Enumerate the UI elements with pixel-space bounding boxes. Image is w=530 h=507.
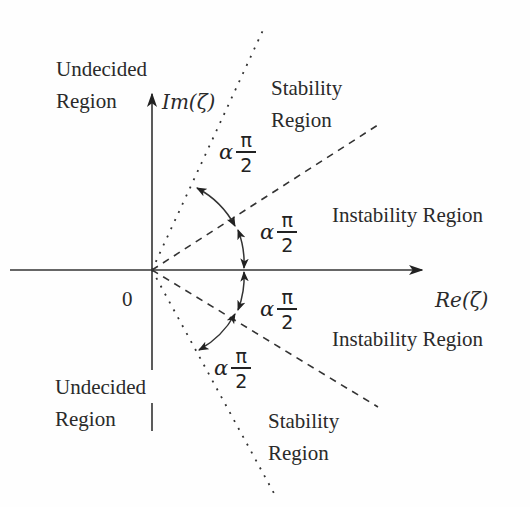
pi-symbol: π	[235, 346, 246, 366]
origin-label: 0	[122, 286, 133, 312]
angle-label-lower-outer: α π 2	[214, 346, 251, 391]
real-axis-label: Re(ζ)	[435, 287, 488, 313]
fraction-bar	[277, 231, 297, 233]
pi-symbol: π	[281, 210, 292, 230]
undecided-region-bottom: Undecided Region	[55, 374, 146, 432]
undecided-region-top: Undecided Region	[56, 56, 147, 114]
denominator: 2	[281, 235, 293, 255]
denominator: 2	[235, 371, 247, 391]
stability-bottom-line1: Stability	[268, 408, 339, 434]
stability-region-diagram: Im(ζ) Re(ζ) 0 Undecided Region Stability…	[0, 0, 530, 507]
denominator: 2	[281, 312, 293, 332]
undecided-bottom-line1: Undecided	[55, 374, 146, 400]
instability-region-bottom: Instability Region	[332, 326, 483, 352]
angle-label-lower-inner: α π 2	[260, 287, 297, 332]
denominator: 2	[240, 155, 252, 175]
stability-top-line1: Stability	[271, 75, 342, 101]
angle-arc-lower-outer	[199, 314, 235, 350]
undecided-top-line1: Undecided	[56, 56, 147, 82]
stability-top-line2: Region	[271, 107, 342, 133]
undecided-bottom-line2: Region	[55, 406, 146, 432]
instability-region-top: Instability Region	[332, 202, 483, 228]
stability-region-top: Stability Region	[271, 75, 342, 133]
alpha-symbol: α	[260, 297, 274, 321]
imaginary-axis-label: Im(ζ)	[162, 89, 215, 115]
fraction-bar	[236, 151, 256, 153]
stability-bottom-line2: Region	[268, 440, 339, 466]
alpha-symbol: α	[219, 140, 233, 164]
pi-symbol: π	[240, 130, 251, 150]
angle-label-upper-inner: α π 2	[260, 210, 297, 255]
fraction-bar	[231, 367, 251, 369]
angle-arc-lower-inner	[238, 272, 244, 310]
undecided-top-line2: Region	[56, 88, 147, 114]
angle-arc-upper-inner	[238, 230, 244, 268]
fraction-bar	[277, 308, 297, 310]
angle-label-upper-outer: α π 2	[219, 130, 256, 175]
pi-symbol: π	[281, 287, 292, 307]
alpha-symbol: α	[214, 356, 228, 380]
alpha-symbol: α	[260, 220, 274, 244]
stability-region-bottom: Stability Region	[268, 408, 339, 466]
